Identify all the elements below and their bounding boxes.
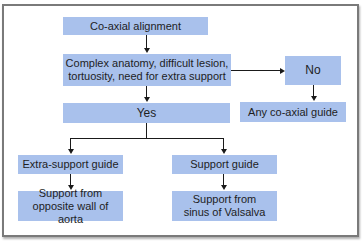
node-yes: Yes	[63, 103, 230, 123]
arrow-down-icon	[144, 48, 150, 53]
arrow-down-icon	[144, 97, 150, 102]
arrow-down-icon	[221, 185, 227, 190]
node-no: No	[285, 56, 341, 85]
node-question: Complex anatomy, difficult lesion, tortu…	[63, 54, 231, 86]
arrow-down-icon	[221, 149, 227, 154]
node-support-guide: Support guide	[172, 155, 277, 174]
connector-start-to-question	[146, 35, 147, 49]
node-co-axial-alignment: Co-axial alignment	[63, 17, 208, 35]
node-extra-support-guide: Extra-support guide	[18, 155, 123, 174]
node-any-co-axial-guide: Any co-axial guide	[240, 102, 346, 122]
connector-branch-horizontal	[70, 138, 224, 139]
arrow-down-icon	[68, 149, 74, 154]
node-opposite-wall-aorta: Support from opposite wall of aorta	[18, 191, 123, 221]
connector-yes-stem	[146, 123, 147, 138]
connector-question-to-no	[231, 70, 281, 71]
arrow-down-icon	[311, 96, 317, 101]
node-sinus-of-valsalva: Support from sinus of Valsalva	[172, 191, 277, 221]
